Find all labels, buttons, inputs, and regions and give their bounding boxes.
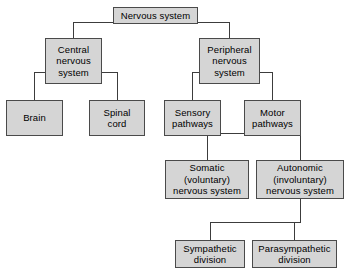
node-label-line: system bbox=[214, 67, 245, 79]
connector-auto-busbar bbox=[210, 222, 301, 223]
node-autonomic-nervous-system[interactable]: Autonomic(involuntary)nervous system bbox=[256, 160, 344, 199]
node-label-line: Autonomic bbox=[277, 162, 323, 174]
nervous-system-diagram: Nervous systemCentralnervoussystemPeriph… bbox=[0, 0, 351, 278]
node-nervous-system[interactable]: Nervous system bbox=[113, 7, 198, 24]
node-peripheral-nervous-system[interactable]: Peripheralnervoussystem bbox=[199, 38, 260, 84]
node-somatic-nervous-system[interactable]: Somatic(voluntary)nervous system bbox=[165, 160, 249, 199]
node-label-line: Brain bbox=[23, 112, 46, 124]
connector-ns-to-cns bbox=[73, 22, 74, 38]
connector-pns-to-motor bbox=[272, 72, 273, 100]
node-label-line: nervous bbox=[212, 55, 247, 67]
node-parasympathetic-division[interactable]: Parasympatheticdivision bbox=[252, 240, 337, 268]
node-label-line: nervous system bbox=[266, 185, 334, 197]
connector-cns-to-brain bbox=[34, 72, 35, 100]
connector-cns-to-spinal bbox=[117, 72, 118, 100]
node-sympathetic-division[interactable]: Sympatheticdivision bbox=[175, 240, 245, 268]
node-label-line: Somatic bbox=[189, 162, 224, 174]
connector-motor-to-autonomic bbox=[300, 133, 301, 160]
node-sensory-pathways[interactable]: Sensorypathways bbox=[164, 100, 221, 136]
connector-auto-drop bbox=[300, 199, 301, 222]
node-label-line: nervous system bbox=[173, 185, 241, 197]
node-label-line: nervous bbox=[56, 55, 91, 67]
connector-pns-to-sensory bbox=[192, 72, 193, 100]
node-label-line: Sensory bbox=[175, 107, 211, 119]
node-label-line: Nervous system bbox=[121, 10, 191, 22]
connector-auto-to-symp bbox=[210, 222, 211, 240]
node-label-line: (voluntary) bbox=[184, 174, 230, 186]
node-label-line: pathways bbox=[172, 118, 213, 130]
node-label-line: pathways bbox=[252, 118, 293, 130]
connector-auto-to-parasymp bbox=[294, 222, 295, 240]
node-label-line: division bbox=[194, 254, 226, 266]
node-label-line: division bbox=[278, 254, 310, 266]
node-label-line: Parasympathetic bbox=[258, 243, 330, 255]
node-label-line: Peripheral bbox=[207, 44, 251, 56]
node-label-line: Sympathetic bbox=[183, 243, 236, 255]
node-label-line: Spinal bbox=[103, 107, 130, 119]
node-label-line: Central bbox=[58, 44, 89, 56]
node-label-line: cord bbox=[108, 118, 127, 130]
node-label-line: (involuntary) bbox=[273, 174, 327, 186]
node-central-nervous-system[interactable]: Centralnervoussystem bbox=[45, 38, 102, 84]
connector-ns-to-pns bbox=[229, 22, 230, 38]
node-brain[interactable]: Brain bbox=[6, 100, 63, 136]
node-label-line: system bbox=[58, 67, 89, 79]
node-label-line: Motor bbox=[260, 107, 285, 119]
node-spinal-cord[interactable]: Spinalcord bbox=[89, 100, 145, 136]
connector-motor-to-somatic bbox=[207, 133, 208, 160]
node-motor-pathways[interactable]: Motorpathways bbox=[244, 100, 301, 136]
